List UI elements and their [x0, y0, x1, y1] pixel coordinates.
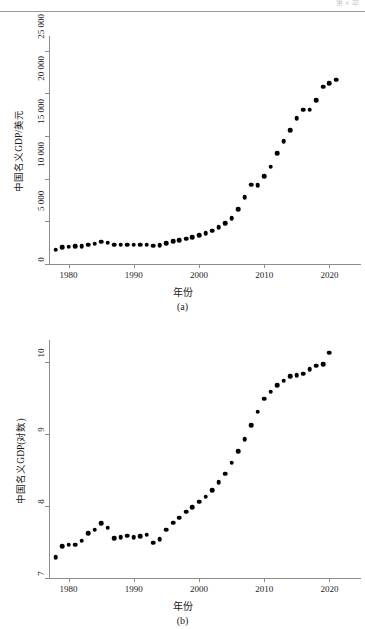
data-point: [295, 373, 300, 378]
data-point: [138, 242, 143, 247]
data-point: [255, 183, 260, 188]
data-point: [177, 238, 182, 243]
data-point: [262, 174, 267, 179]
x-tick-label-b-0: 1980: [60, 584, 78, 594]
data-point: [268, 164, 273, 169]
data-point: [242, 437, 247, 442]
data-point: [105, 525, 110, 530]
data-point: [334, 77, 339, 82]
data-point: [308, 107, 313, 112]
data-point: [314, 363, 319, 368]
page-header-rule: [0, 11, 365, 12]
data-point: [53, 247, 58, 252]
data-point: [236, 207, 241, 212]
data-point: [295, 116, 300, 121]
data-point: [190, 235, 195, 240]
data-point: [197, 233, 202, 238]
x-tick-label-b-1: 1990: [125, 584, 143, 594]
data-point: [99, 239, 104, 244]
data-point: [60, 245, 65, 250]
data-point: [131, 535, 136, 540]
data-point: [210, 488, 215, 493]
data-point: [223, 221, 228, 226]
data-point: [229, 216, 234, 221]
data-point: [288, 128, 293, 133]
data-point: [177, 515, 182, 520]
data-point: [66, 244, 71, 249]
data-point: [327, 350, 332, 355]
data-point: [118, 535, 123, 540]
y-axis-title-b: 中国名义GDP(对数): [13, 418, 27, 503]
data-point: [138, 534, 143, 539]
data-point: [131, 243, 136, 248]
x-tick-label-b-3: 2010: [255, 584, 273, 594]
data-point: [203, 494, 208, 499]
data-point: [281, 139, 286, 144]
data-point: [223, 471, 228, 476]
data-point: [197, 499, 202, 504]
data-point: [99, 521, 104, 526]
data-point: [288, 374, 293, 379]
data-point: [236, 449, 241, 454]
data-point: [308, 367, 313, 372]
data-point: [321, 84, 326, 89]
data-point: [118, 242, 123, 247]
data-point: [164, 527, 169, 532]
data-point: [73, 244, 78, 249]
panel-caption-b: (b): [0, 615, 365, 626]
figure-panel-b: 7891019801990200020102020 中国名义GDP(对数) 年份…: [0, 322, 365, 629]
data-point: [53, 555, 58, 560]
axis-ticks-b: 7891019801990200020102020: [0, 322, 365, 584]
data-point: [158, 537, 163, 542]
y-axis-line-b: [49, 340, 50, 578]
data-point: [249, 423, 254, 428]
panel-caption-a: (a): [0, 301, 365, 312]
x-tick-label-b-2: 2000: [190, 584, 208, 594]
data-point: [92, 241, 97, 246]
page-header-text: 第 4 章: [336, 0, 360, 7]
data-point: [66, 543, 71, 548]
data-point: [216, 480, 221, 485]
data-point: [275, 151, 280, 156]
data-point: [151, 244, 156, 249]
data-point: [242, 195, 247, 200]
data-point: [158, 243, 163, 248]
data-point: [171, 239, 176, 244]
data-point: [327, 81, 332, 86]
data-points-b: [0, 322, 365, 584]
y-axis-title-a: 中国名义GDP/美元: [11, 110, 25, 192]
data-point: [171, 520, 176, 525]
x-tick-label-a-0: 1980: [60, 270, 78, 280]
figure-panel-a: 05 00010 00015 00020 00025 0001980199020…: [0, 14, 365, 314]
data-point: [255, 409, 260, 414]
data-point: [145, 243, 150, 248]
x-axis-line-b: [49, 578, 361, 579]
x-tick-label-a-1: 1990: [125, 270, 143, 280]
x-axis-title-a: 年份: [0, 284, 365, 299]
data-point: [301, 107, 306, 112]
data-point: [210, 228, 215, 233]
x-tick-label-a-2: 2000: [190, 270, 208, 280]
data-point: [86, 243, 91, 248]
axis-ticks-a: 05 00010 00015 00020 00025 0001980199020…: [0, 14, 365, 276]
data-point: [203, 231, 208, 236]
data-point: [60, 544, 65, 549]
data-point: [268, 389, 273, 394]
data-points-a: [0, 14, 365, 276]
x-tick-label-a-4: 2020: [320, 270, 338, 280]
data-point: [216, 225, 221, 230]
data-point: [190, 505, 195, 510]
page-header: 第 4 章: [0, 0, 365, 14]
data-point: [105, 240, 110, 245]
data-point: [112, 536, 117, 541]
data-point: [164, 241, 169, 246]
data-point: [86, 531, 91, 536]
data-point: [125, 533, 130, 538]
data-point: [125, 242, 130, 247]
x-tick-label-b-4: 2020: [320, 584, 338, 594]
data-point: [73, 543, 78, 548]
data-point: [262, 396, 267, 401]
data-point: [249, 182, 254, 187]
data-point: [275, 383, 280, 388]
data-point: [281, 378, 286, 383]
